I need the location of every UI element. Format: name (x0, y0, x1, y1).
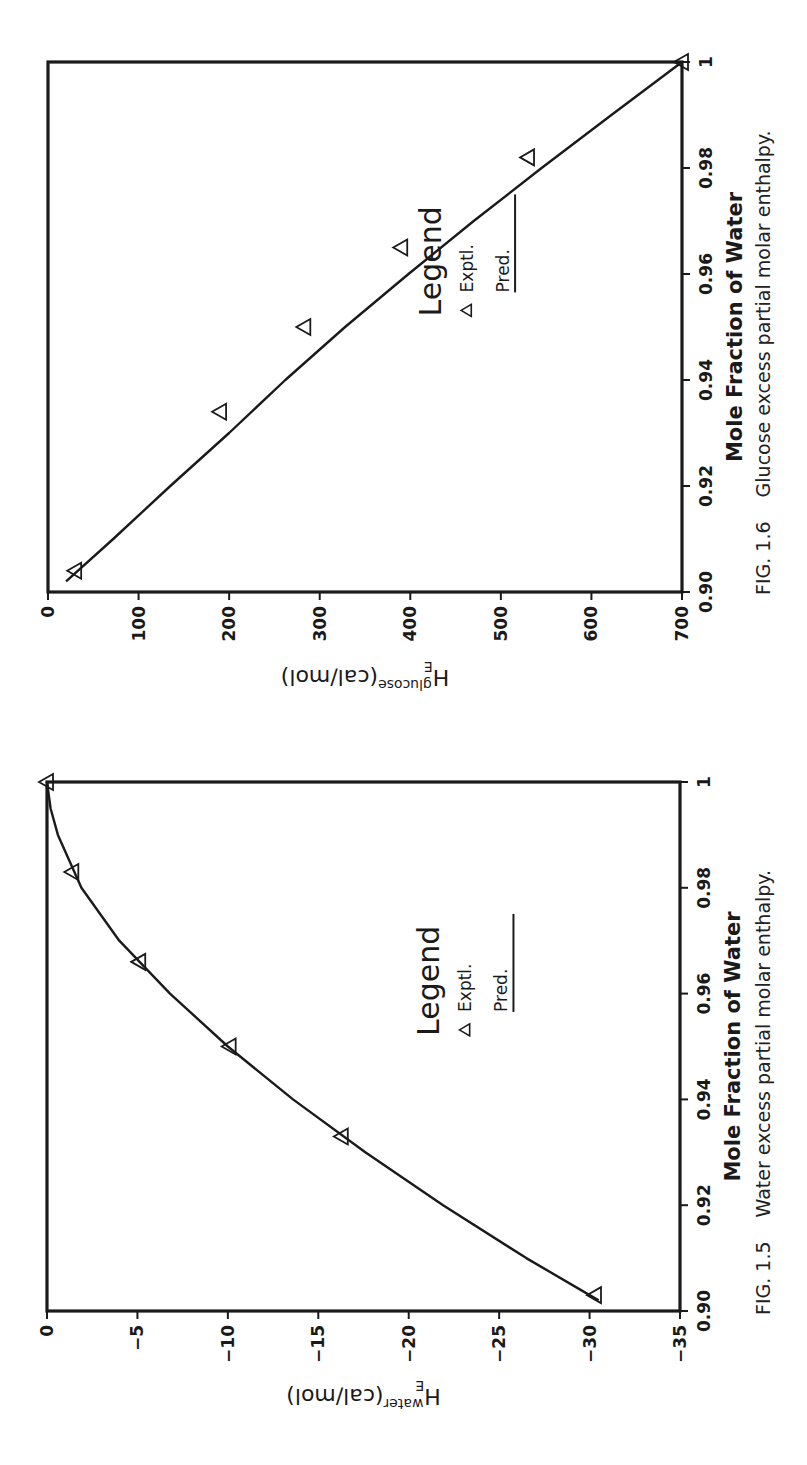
y-tick-label: 0 (38, 606, 58, 618)
legend-triangle-icon (459, 1024, 469, 1036)
x-tick-label: 0.98 (696, 147, 716, 189)
caption-number: FIG. 1.5 (752, 1241, 774, 1315)
y-tick-label: 600 (581, 606, 601, 642)
figure-1-6-caption: FIG. 1.6 Glucose excess partial molar en… (752, 131, 774, 595)
y-tick-label: −25 (489, 1325, 509, 1363)
predicted-line (66, 62, 682, 581)
legend-title: Legend (413, 206, 448, 316)
y-label-sup: glucose (378, 677, 432, 693)
y-label-base: H (424, 1384, 441, 1409)
y-tick-label: 0 (37, 1325, 57, 1337)
y-tick-label: 400 (400, 606, 420, 642)
triangle-marker-icon (520, 149, 534, 165)
x-tick-label: 0.96 (694, 973, 714, 1015)
legend-title: Legend (411, 926, 446, 1036)
legend-triangle-icon (461, 304, 471, 316)
y-tick-label: 300 (310, 606, 330, 642)
legend-pred-label: Pred. (493, 249, 513, 292)
x-tick-label: 0.90 (696, 571, 716, 613)
rotated-page: 0.900.920.940.960.9810−5−10−15−20−25−30−… (0, 0, 807, 1465)
plot-frame (47, 782, 680, 1311)
y-label-base: H (433, 665, 450, 690)
y-tick-label: −30 (580, 1325, 600, 1363)
caption-text: Glucose excess partial molar enthalpy. (752, 131, 774, 498)
y-tick-label: −10 (218, 1325, 238, 1363)
y-tick-label: −5 (127, 1325, 147, 1351)
predicted-line (47, 782, 599, 1300)
x-tick-label: 0.94 (696, 359, 716, 401)
legend-exptl-label: Exptl. (457, 244, 477, 292)
y-axis-label: HEglucose(cal/mol) (281, 659, 450, 693)
triangle-marker-icon (296, 319, 310, 335)
y-tick-label: 200 (219, 606, 239, 642)
y-label-sup: water (383, 1396, 423, 1412)
y-tick-label: 100 (129, 606, 149, 642)
caption-text: Water excess partial molar enthalpy. (752, 870, 774, 1217)
y-tick-label: 500 (491, 606, 511, 642)
x-tick-label: 1 (696, 56, 716, 68)
x-axis-label: Mole Fraction of Water (723, 191, 747, 462)
y-tick-label: −15 (308, 1325, 328, 1363)
x-tick-label: 0.98 (694, 867, 714, 909)
y-axis-label: HEwater(cal/mol) (286, 1378, 441, 1412)
legend-exptl-label: Exptl. (455, 964, 475, 1012)
y-tick-label: 700 (672, 606, 692, 642)
x-tick-label: 0.96 (696, 253, 716, 295)
figure-1-6-chart: 0.900.920.940.960.9817006005004003002001… (0, 0, 807, 745)
x-tick-label: 0.94 (694, 1078, 714, 1120)
figure-1-5-caption: FIG. 1.5 Water excess partial molar enth… (752, 870, 774, 1315)
y-label-sub: E (424, 659, 433, 675)
y-label-unit: (cal/mol) (281, 665, 378, 690)
figure-1-5-chart: 0.900.920.940.960.9810−5−10−15−20−25−30−… (0, 735, 807, 1465)
x-tick-label: 0.90 (694, 1290, 714, 1332)
y-tick-label: −20 (399, 1325, 419, 1363)
triangle-marker-icon (393, 240, 407, 256)
y-label-unit: (cal/mol) (286, 1384, 383, 1409)
x-tick-label: 0.92 (696, 465, 716, 507)
caption-number: FIG. 1.6 (752, 521, 774, 595)
y-label-sub: E (415, 1378, 424, 1394)
x-tick-label: 0.92 (694, 1184, 714, 1226)
legend-pred-label: Pred. (491, 969, 511, 1012)
y-tick-label: −35 (670, 1325, 690, 1363)
triangle-marker-icon (212, 404, 226, 420)
x-axis-label: Mole Fraction of Water (721, 911, 745, 1182)
x-tick-label: 1 (694, 776, 714, 788)
